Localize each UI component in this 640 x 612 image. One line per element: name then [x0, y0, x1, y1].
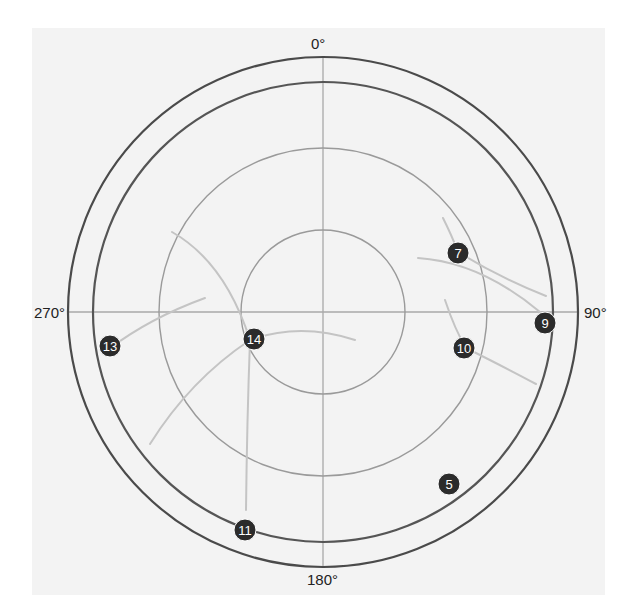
svg-text:5: 5: [445, 477, 452, 492]
label-180-deg: 180°: [307, 572, 338, 587]
marker-11[interactable]: 11: [234, 519, 256, 541]
polar-plot: 7 9 10 5 11 13 14: [0, 0, 640, 612]
marker-13[interactable]: 13: [99, 335, 121, 357]
label-90-deg: 90°: [584, 305, 607, 320]
svg-text:9: 9: [541, 316, 548, 331]
marker-10[interactable]: 10: [453, 337, 475, 359]
svg-text:14: 14: [247, 332, 261, 347]
trail-13: [109, 298, 205, 349]
svg-text:7: 7: [454, 246, 461, 261]
svg-text:13: 13: [103, 339, 117, 354]
label-270-deg: 270°: [34, 305, 65, 320]
marker-14[interactable]: 14: [243, 328, 265, 350]
svg-text:11: 11: [238, 523, 252, 538]
trail-14: [250, 331, 355, 340]
label-0-deg: 0°: [311, 36, 325, 51]
marker-5[interactable]: 5: [438, 473, 460, 495]
markers: 7 9 10 5 11 13 14: [99, 242, 556, 541]
svg-text:10: 10: [457, 341, 471, 356]
marker-7[interactable]: 7: [447, 242, 469, 264]
trajectory-trails: [109, 218, 546, 510]
marker-9[interactable]: 9: [534, 312, 556, 334]
